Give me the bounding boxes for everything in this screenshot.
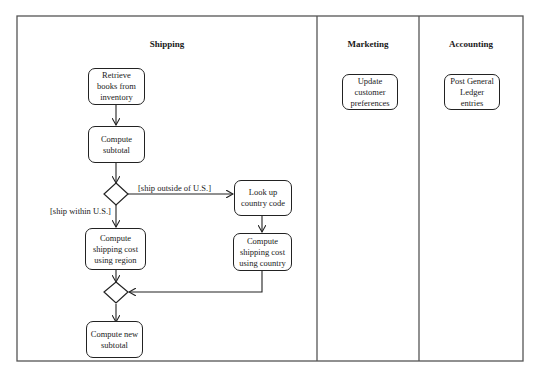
node-line: Update xyxy=(350,76,389,87)
node-line: customer xyxy=(350,87,389,98)
node-line: books from xyxy=(97,81,136,92)
node-line: Compute new xyxy=(91,329,138,340)
node-line: Compute xyxy=(101,134,132,145)
action-compute-new-subtotal: Compute new subtotal xyxy=(86,321,143,358)
action-lookup-country: Look up country code xyxy=(234,180,292,216)
node-line: using region xyxy=(93,255,138,266)
action-post-ledger: Post General Ledger entries xyxy=(444,74,500,110)
node-line: Compute xyxy=(239,236,286,247)
node-line: Compute xyxy=(93,233,138,244)
action-ship-cost-country: Compute shipping cost using country xyxy=(233,233,292,271)
guard-ship-outside-us: [ship outside of U.S.] xyxy=(138,183,211,193)
action-compute-subtotal: Compute subtotal xyxy=(88,126,145,163)
guard-ship-within-us: [ship within U.S.] xyxy=(50,206,111,216)
node-line: subtotal xyxy=(91,340,138,351)
node-line: Ledger xyxy=(450,87,494,98)
lane-title-accounting: Accounting xyxy=(419,39,523,49)
edge-country-cost-to-merge xyxy=(129,271,262,292)
merge-node xyxy=(104,282,128,303)
node-line: inventory xyxy=(97,92,136,103)
lane-title-shipping: Shipping xyxy=(17,39,317,49)
node-line: preferences xyxy=(350,98,389,109)
node-line: country code xyxy=(241,198,285,209)
node-line: Retrieve xyxy=(97,70,136,81)
node-line: shipping cost xyxy=(239,247,286,258)
action-update-preferences: Update customer preferences xyxy=(342,74,398,110)
node-line: subtotal xyxy=(101,145,132,156)
action-ship-cost-region: Compute shipping cost using region xyxy=(85,228,146,270)
node-line: Look up xyxy=(241,187,285,198)
node-line: Post General xyxy=(450,76,494,87)
decision-node xyxy=(104,183,128,205)
lane-title-marketing: Marketing xyxy=(317,39,419,49)
node-line: entries xyxy=(450,98,494,109)
node-line: using country xyxy=(239,258,286,269)
node-line: shipping cost xyxy=(93,244,138,255)
action-retrieve-books: Retrieve books from inventory xyxy=(88,68,145,105)
